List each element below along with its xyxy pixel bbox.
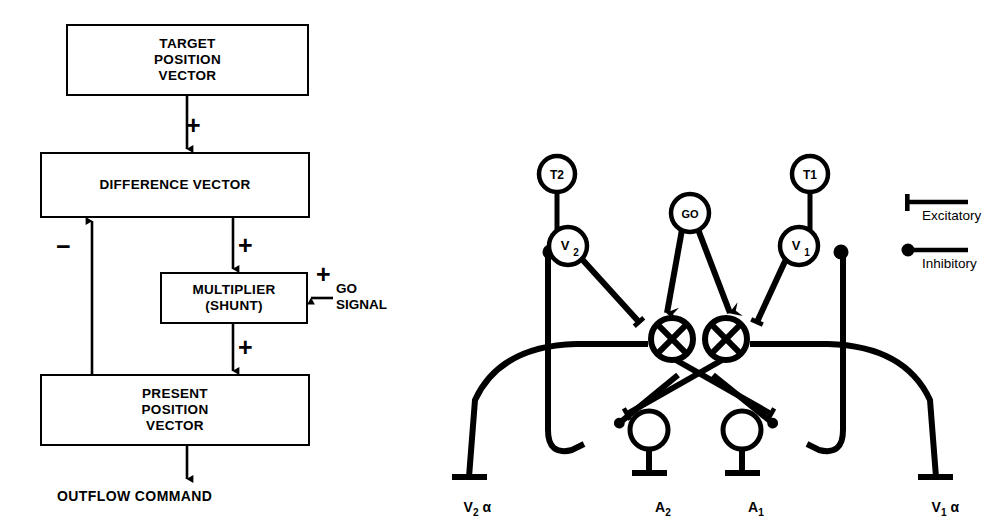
terminal-label-v1alpha-suffix: α xyxy=(950,499,959,515)
node-t1: T1 xyxy=(792,156,828,192)
node-v1: V 1 xyxy=(780,227,818,265)
node-multiplier-left xyxy=(651,318,693,360)
node-t2: T2 xyxy=(539,156,575,192)
node-v1-label: V xyxy=(792,238,801,253)
terminal-label-v1alpha-sub: 1 xyxy=(941,507,947,518)
terminal-label-a2: A2 xyxy=(640,486,671,526)
link-a2-to-v2-loop xyxy=(548,257,584,451)
legend xyxy=(902,194,969,257)
legend-excitatory-label: Excitatory xyxy=(922,208,981,223)
terminal-label-a1-main: A xyxy=(748,499,758,515)
link-v2-to-multiplier-left xyxy=(580,257,639,322)
link-multiplier-left-to-v2alpha xyxy=(469,344,576,477)
terminal-label-v2alpha-main: V xyxy=(464,499,473,515)
node-v2-subscript: 2 xyxy=(573,247,579,258)
inhibitory-terminal-v1 xyxy=(834,245,849,260)
terminal-label-v2alpha-suffix: α xyxy=(482,499,491,515)
terminal-label-a2-sub: 2 xyxy=(665,507,671,518)
node-go: GO xyxy=(671,194,709,232)
node-multiplier-right xyxy=(705,318,747,360)
node-go-label: GO xyxy=(681,208,699,220)
link-a1-to-v1-loop xyxy=(807,257,843,451)
terminal-label-a1-sub: 1 xyxy=(758,507,764,518)
node-t1-label: T1 xyxy=(803,168,817,182)
terminal-label-a1: A1 xyxy=(733,486,764,526)
legend-excitatory-bar xyxy=(905,194,910,211)
node-v1-subscript: 1 xyxy=(804,247,810,258)
terminal-label-v2alpha-sub: 2 xyxy=(473,507,479,518)
terminal-label-v2alpha: V2 α xyxy=(448,486,491,526)
link-go-to-multiplier-left xyxy=(667,224,683,313)
legend-inhibitory-label: Inhibitory xyxy=(922,256,977,271)
node-v2-label: V xyxy=(561,238,570,253)
link-v1-to-multiplier-right xyxy=(757,257,787,322)
neural-circuit: T2 T1 GO V 2 V 1 xyxy=(0,0,1003,526)
node-v2: V 2 xyxy=(549,227,587,265)
node-a2 xyxy=(630,411,668,449)
link-go-to-multiplier-right xyxy=(696,224,730,313)
legend-inhibitory-dot xyxy=(902,244,915,257)
terminal-label-v1alpha: V1 α xyxy=(916,486,959,526)
node-a1 xyxy=(723,411,761,449)
terminal-label-a2-main: A xyxy=(655,499,665,515)
node-t2-label: T2 xyxy=(550,168,564,182)
figure-canvas: TARGET POSITION VECTOR DIFFERENCE VECTOR… xyxy=(0,0,1003,526)
terminal-label-v1alpha-main: V xyxy=(932,499,941,515)
